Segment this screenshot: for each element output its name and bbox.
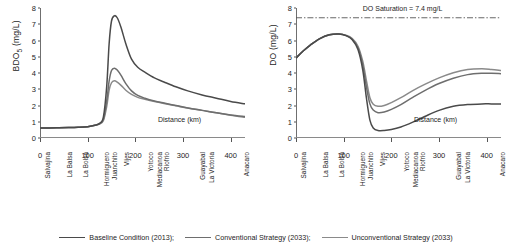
- y-tick-label: 7: [32, 21, 36, 28]
- station-label: Guayabal: [200, 152, 206, 180]
- station-label: La Victoria: [465, 152, 471, 183]
- y-tick-label: 3: [288, 86, 292, 93]
- x-tick-mark: [439, 138, 440, 142]
- plot-area-bdo5: BDO5 (mg/L) 012345678 0100200300400 Dist…: [0, 0, 256, 150]
- y-axis-label-do: DO (mg/L): [268, 2, 278, 88]
- legend-item: Baseline Condition (2013);: [59, 233, 174, 242]
- do-saturation-annotation: DO Saturation = 7.4 mg/L: [363, 5, 443, 12]
- legend-label: Unconventional Strategy (2033): [352, 233, 453, 242]
- y-axis-label-units: (mg/L): [11, 20, 21, 48]
- station-label: Vijes: [380, 152, 386, 166]
- x-tick-mark: [40, 138, 41, 142]
- station-label: Riofrio: [164, 152, 170, 171]
- y-tick-label: 2: [288, 102, 292, 109]
- y-axis-ticks-bdo5: 012345678: [22, 0, 36, 130]
- legend-item: Conventional Strategy (2033);: [185, 233, 311, 242]
- station-label: Hormiguero: [104, 152, 110, 186]
- station-label: La Bolsa: [339, 152, 345, 177]
- y-tick-label: 4: [32, 70, 36, 77]
- figure-root: BDO5 (mg/L) 012345678 0100200300400 Dist…: [0, 0, 512, 250]
- station-label: Juanchito: [112, 152, 118, 180]
- station-label: La Balsa: [323, 152, 329, 177]
- station-label: Riofrio: [420, 152, 426, 171]
- curves-bdo5: [40, 8, 245, 138]
- station-labels-bdo5: SalvajinaLa BalsaLa BolsaHormigueroJuanc…: [40, 152, 245, 212]
- station-label: Yotoco: [148, 152, 154, 172]
- legend-label: Baseline Condition (2013);: [89, 233, 174, 242]
- plot-area-do: DO (mg/L) 012345678 0100200300400 DO Sat…: [256, 0, 512, 150]
- legend-item: Unconventional Strategy (2033): [322, 233, 453, 242]
- axes-do: 0100200300400 DO Saturation = 7.4 mg/L D…: [296, 8, 501, 138]
- station-label: Salvajina: [45, 152, 51, 178]
- x-axis-label-bdo5: Distance (km): [158, 116, 201, 123]
- y-tick-label: 6: [288, 37, 292, 44]
- y-tick-label: 5: [32, 53, 36, 60]
- x-tick-mark: [391, 138, 392, 142]
- x-tick-mark: [231, 138, 232, 142]
- x-tick-mark: [183, 138, 184, 142]
- y-tick-label: 1: [32, 118, 36, 125]
- y-tick-label: 0: [288, 135, 292, 142]
- y-tick-label: 4: [288, 70, 292, 77]
- axes-bdo5: 0100200300400 Distance (km): [40, 8, 245, 138]
- station-label: Salvajina: [301, 152, 307, 178]
- x-axis-label-do: Distance (km): [414, 116, 457, 123]
- x-tick-mark: [344, 138, 345, 142]
- legend-line-swatch: [185, 237, 211, 238]
- x-tick-mark: [296, 138, 297, 142]
- station-label: Vijes: [124, 152, 130, 166]
- legend-label: Conventional Strategy (2033);: [215, 233, 311, 242]
- chart-panel-bdo5: BDO5 (mg/L) 012345678 0100200300400 Dist…: [0, 0, 256, 215]
- station-label: Juanchito: [368, 152, 374, 180]
- station-label: Yotoco: [404, 152, 410, 172]
- y-tick-label: 7: [288, 21, 292, 28]
- y-tick-label: 3: [32, 86, 36, 93]
- y-axis-label-text: BDO: [11, 52, 21, 71]
- station-label: Anacaro: [500, 152, 506, 176]
- data-series-line: [40, 81, 245, 128]
- station-label: Anacaro: [244, 152, 250, 176]
- station-label: Guayabal: [456, 152, 462, 180]
- legend-line-swatch: [322, 237, 348, 238]
- y-tick-label: 6: [32, 37, 36, 44]
- curves-do: [296, 8, 501, 138]
- y-tick-label: 5: [288, 53, 292, 60]
- data-series-line: [296, 34, 501, 131]
- y-axis-ticks-do: 012345678: [278, 0, 292, 130]
- station-labels-do: SalvajinaLa BalsaLa BolsaHormigueroJuanc…: [296, 152, 501, 212]
- legend-line-swatch: [59, 237, 85, 238]
- y-tick-label: 8: [288, 5, 292, 12]
- chart-panel-do: DO (mg/L) 012345678 0100200300400 DO Sat…: [256, 0, 512, 215]
- station-label: Hormiguero: [360, 152, 366, 186]
- data-series-line: [296, 34, 501, 106]
- station-label: La Bolsa: [83, 152, 89, 177]
- y-tick-label: 1: [288, 118, 292, 125]
- data-series-line: [40, 16, 245, 128]
- y-tick-label: 0: [32, 135, 36, 142]
- station-label: La Victoria: [209, 152, 215, 183]
- x-tick-mark: [88, 138, 89, 142]
- station-label: La Balsa: [67, 152, 73, 177]
- y-tick-label: 8: [32, 5, 36, 12]
- x-tick-mark: [487, 138, 488, 142]
- figure-legend: Baseline Condition (2013);Conventional S…: [0, 228, 512, 246]
- x-tick-mark: [135, 138, 136, 142]
- data-series-line: [296, 34, 501, 113]
- y-tick-label: 2: [32, 102, 36, 109]
